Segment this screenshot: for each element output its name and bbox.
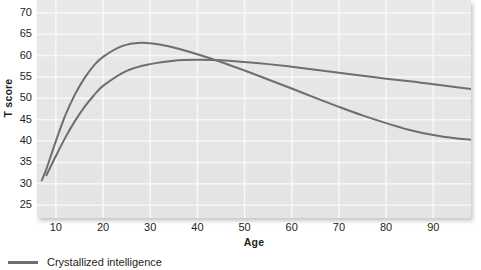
legend-line-swatch (8, 261, 38, 264)
x-axis-tick-labels: 102030405060708090 (0, 221, 481, 237)
y-tick-label: 35 (20, 156, 32, 167)
x-tick-label: 60 (278, 221, 306, 233)
legend-item: Crystallized intelligence (8, 256, 478, 269)
x-tick-label: 10 (42, 221, 70, 233)
chart-figure: 70656055504540353025 T score 10203040506… (0, 0, 481, 270)
y-tick-label: 60 (20, 50, 32, 61)
series-line-0 (46, 60, 471, 175)
x-tick-label: 90 (419, 221, 447, 233)
y-axis-title: T score (2, 68, 14, 128)
y-tick-label: 70 (20, 7, 32, 18)
x-tick-label: 30 (136, 221, 164, 233)
chart-legend: Crystallized intelligence (8, 256, 478, 270)
x-tick-label: 80 (372, 221, 400, 233)
y-tick-label: 50 (20, 92, 32, 103)
y-tick-label: 40 (20, 135, 32, 146)
data-curves (37, 0, 471, 218)
y-tick-label: 65 (20, 28, 32, 39)
x-tick-label: 50 (231, 221, 259, 233)
x-tick-label: 70 (325, 221, 353, 233)
legend-label: Crystallized intelligence (47, 256, 162, 269)
y-tick-label: 30 (20, 178, 32, 189)
y-tick-label: 45 (20, 114, 32, 125)
x-axis-title: Age (37, 236, 471, 248)
y-tick-label: 25 (20, 199, 32, 210)
plot-area (37, 0, 471, 218)
y-tick-label: 55 (20, 71, 32, 82)
x-tick-label: 40 (183, 221, 211, 233)
x-tick-label: 20 (89, 221, 117, 233)
